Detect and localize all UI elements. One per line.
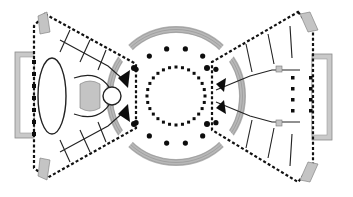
rotunda-column [147,53,152,58]
inner-column [156,117,159,120]
right-wing [204,12,318,182]
inner-column [148,107,151,110]
inner-column [204,95,207,98]
inner-column [187,121,190,124]
rotunda-column [200,53,205,58]
inner-column [156,72,159,75]
inner-column [203,88,206,91]
inner-column [197,113,200,116]
inner-column [203,101,206,104]
rotunda-column [164,140,169,145]
inner-column [146,88,149,91]
rotunda-column [213,120,218,125]
inner-column [193,72,196,75]
inner-column [146,95,149,98]
floor-plan [0,0,353,197]
right-upper-stair [300,12,318,32]
rotunda-column [147,133,152,138]
inner-column [175,66,178,69]
right-lower-stair [300,162,318,182]
right-portico-columns [291,76,313,113]
left-terrace [15,52,34,138]
inner-column [201,107,204,110]
inner-column [146,101,149,104]
inner-column [162,121,165,124]
inner-column [152,113,155,116]
inner-column [193,117,196,120]
rotunda-column [183,140,188,145]
inner-column [148,82,151,85]
oval-hall [38,58,66,134]
right-terrace [312,54,332,140]
inner-column [162,68,165,71]
left-vestibule [103,87,121,105]
left-lower-stair [38,158,50,180]
inner-column [152,76,155,79]
rotunda-column [200,133,205,138]
inner-column [168,123,171,126]
rotunda-column [183,46,188,51]
rotunda-column [213,67,218,72]
inner-column [168,66,171,69]
inner-column [187,68,190,71]
inner-column [201,82,204,85]
rotunda-column [133,67,138,72]
inner-column [181,66,184,69]
rotunda-inner-colonnade [146,66,207,127]
rotunda-ring [107,27,245,165]
left-upper-stair [38,12,50,34]
inner-column [175,124,178,127]
rotunda-column [133,120,138,125]
inner-column [181,123,184,126]
left-central-stair [80,81,100,111]
left-wing [32,12,137,180]
rotunda-column [164,46,169,51]
inner-column [197,76,200,79]
